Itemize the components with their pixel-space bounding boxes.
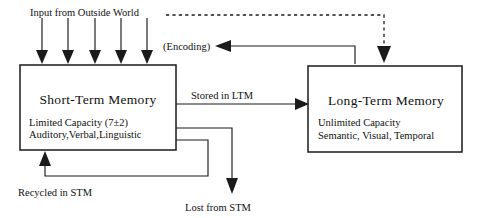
memory-model-diagram: Input from Outside World (Encoding) Stor… [0, 0, 480, 218]
input-arrow-2 [62, 18, 74, 64]
input-arrow-1 [36, 18, 48, 64]
diagram-canvas: Input from Outside World (Encoding) Stor… [0, 0, 480, 218]
ltm-subtitle-line-2: Semantic, Visual, Temporal [318, 130, 434, 141]
stm-subtitle-line-2: Auditory,Verbal,Linguistic [29, 129, 142, 140]
lost-from-stm-connector [176, 128, 238, 194]
ltm-subtitle-line-1: Unlimited Capacity [318, 117, 401, 128]
input-arrow-4 [115, 18, 127, 64]
input-label: Input from Outside World [30, 7, 140, 18]
stm-title: Short-Term Memory [39, 92, 156, 107]
input-arrow-5 [141, 18, 153, 64]
encoding-label: (Encoding) [163, 41, 211, 53]
stored-in-ltm-label: Stored in LTM [191, 90, 254, 101]
ltm-title: Long-Term Memory [328, 93, 444, 108]
input-arrow-3 [89, 18, 101, 64]
input-to-ltm-dashed-connector [166, 15, 391, 63]
recycled-in-stm-label: Recycled in STM [18, 187, 93, 198]
input-arrow-group [36, 18, 153, 64]
ltm-to-encoding-connector [215, 40, 355, 64]
lost-from-stm-label: Lost from STM [185, 202, 252, 213]
stm-subtitle-line-1: Limited Capacity (7±2) [29, 117, 129, 129]
